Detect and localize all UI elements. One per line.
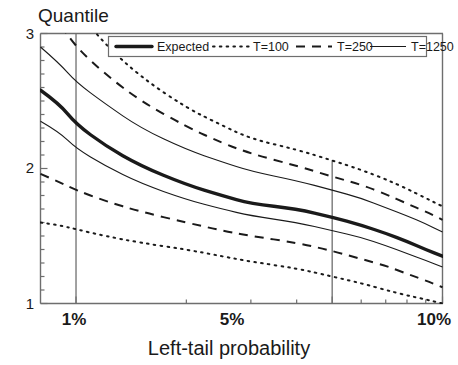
y-tick-label-1: 1 bbox=[26, 295, 34, 312]
chart-legend: Expected T=100 T=250 T=1250 bbox=[109, 37, 454, 57]
legend-label-t1250: T=1250 bbox=[411, 40, 454, 54]
legend-label-t250: T=250 bbox=[337, 40, 373, 54]
y-axis-title: Quantile bbox=[38, 5, 109, 26]
x-tick-label-1pct: 1% bbox=[62, 310, 87, 329]
quantile-chart-figure: Expected T=100 T=250 T=1250 Quantile 3 2… bbox=[0, 0, 458, 365]
x-tick-label-10pct: 10% bbox=[417, 310, 451, 329]
chart-svg: Expected T=100 T=250 T=1250 Quantile 3 2… bbox=[0, 0, 458, 365]
x-axis-title: Left-tail probability bbox=[148, 337, 310, 359]
legend-label-expected: Expected bbox=[157, 40, 209, 54]
y-tick-label-3: 3 bbox=[26, 25, 34, 42]
x-tick-label-5pct: 5% bbox=[220, 310, 245, 329]
legend-label-t100: T=100 bbox=[253, 40, 289, 54]
y-tick-label-2: 2 bbox=[26, 159, 34, 176]
